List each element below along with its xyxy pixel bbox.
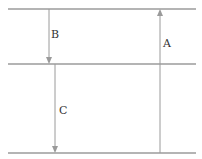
arrow-a [157, 9, 163, 153]
arrow-c-label: C [59, 104, 67, 117]
arrow-c [52, 64, 58, 153]
arrowhead-down-icon [52, 146, 58, 153]
arrow-b-label: B [51, 28, 59, 41]
energy-level-diagram: B C A [0, 0, 202, 159]
arrowhead-up-icon [157, 9, 163, 16]
arrowhead-down-icon [46, 57, 52, 64]
arrow-a-label: A [162, 37, 172, 50]
